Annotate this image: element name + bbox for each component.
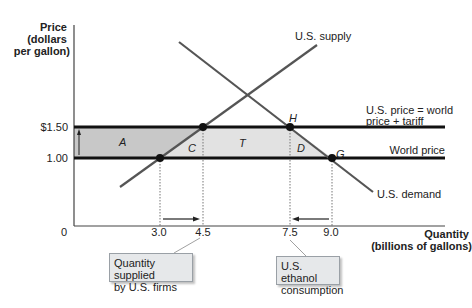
point-h-label: H: [289, 112, 297, 124]
supply-increase-arrow-icon: [163, 217, 200, 222]
supplied-leader-line: [174, 238, 200, 253]
x-tick-9-0: 9.0: [323, 226, 338, 238]
world-price-label: World price: [390, 144, 445, 156]
x-tick-3-0: 3.0: [151, 226, 166, 238]
x-axis-label: Quantity (billions of gallons): [371, 228, 472, 252]
point-supply-tariff: [199, 123, 207, 131]
area-c-label: C: [188, 142, 196, 154]
consumption-decrease-arrow-icon: [292, 217, 329, 222]
y-axis-label: Price (dollars per gallon): [14, 21, 71, 57]
consumption-callout-line-1: U.S. ethanol: [281, 260, 335, 284]
area-a-label: A: [118, 136, 126, 148]
supplied-callout-line-2: by U.S. firms: [114, 281, 188, 293]
point-supply-world: [156, 154, 164, 162]
supply-curve: [120, 45, 317, 187]
point-g-label: G: [336, 148, 345, 160]
x-tick-4-5: 4.5: [195, 226, 210, 238]
area-d-label: D: [297, 142, 305, 154]
demand-curve: [179, 42, 373, 192]
consumption-callout: U.S. ethanol consumption: [276, 256, 340, 285]
tariff-price-label: U.S. price = world price + tariff: [366, 104, 456, 127]
demand-label: U.S. demand: [377, 188, 441, 200]
origin-label: 0: [61, 226, 67, 238]
y-tick-150: $1.50: [40, 121, 68, 133]
supplied-callout: Quantity supplied by U.S. firms: [109, 253, 193, 282]
x-tick-7-5: 7.5: [282, 226, 297, 238]
point-h: [286, 123, 294, 131]
tariff-diagram: Price (dollars per gallon) Quantity (bil…: [0, 0, 472, 308]
supplied-callout-line-1: Quantity supplied: [114, 257, 188, 281]
y-tick-100: 1.00: [47, 152, 68, 164]
consumption-leader-line: [290, 240, 306, 256]
consumption-callout-line-2: consumption: [281, 284, 335, 296]
supply-label: U.S. supply: [295, 30, 352, 42]
area-t-region: [203, 127, 290, 158]
point-g: [328, 154, 336, 162]
